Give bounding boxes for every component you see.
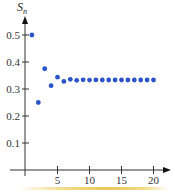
data-point xyxy=(62,79,67,84)
x-axis xyxy=(10,167,171,173)
decorative-bottom-bar xyxy=(18,187,168,190)
x-tick-label: 5 xyxy=(55,174,61,186)
y-axis-arrow-icon xyxy=(22,16,28,24)
data-points xyxy=(30,33,156,105)
data-point xyxy=(94,78,99,83)
data-point xyxy=(42,66,47,71)
data-point xyxy=(151,78,156,83)
data-point xyxy=(87,78,92,83)
y-axis-title: Sn xyxy=(17,0,27,16)
x-tick-label: 15 xyxy=(116,174,128,186)
x-tick-label: 10 xyxy=(84,174,96,186)
y-ticks: 0.10.20.30.40.5 xyxy=(6,29,29,149)
data-point xyxy=(126,78,131,83)
data-point xyxy=(55,75,60,80)
data-point xyxy=(36,100,41,105)
data-point xyxy=(68,77,73,82)
chart: Sn 0.10.20.30.40.5 5101520 xyxy=(0,0,175,194)
y-tick-label: 0.5 xyxy=(6,29,20,41)
data-point xyxy=(74,78,79,83)
data-point xyxy=(100,78,105,83)
x-axis-arrow-icon xyxy=(163,167,171,173)
data-point xyxy=(106,78,111,83)
data-point xyxy=(81,77,86,82)
data-point xyxy=(49,83,54,88)
data-point xyxy=(30,33,35,38)
x-tick-label: 20 xyxy=(148,174,160,186)
y-tick-label: 0.3 xyxy=(6,83,20,95)
data-point xyxy=(132,78,137,83)
x-ticks: 5101520 xyxy=(55,166,160,186)
data-point xyxy=(119,78,124,83)
data-point xyxy=(113,78,118,83)
data-point xyxy=(138,78,143,83)
y-tick-label: 0.2 xyxy=(6,110,20,122)
y-axis xyxy=(22,16,28,176)
y-tick-label: 0.4 xyxy=(6,56,20,68)
data-point xyxy=(145,78,150,83)
y-tick-label: 0.1 xyxy=(6,137,20,149)
